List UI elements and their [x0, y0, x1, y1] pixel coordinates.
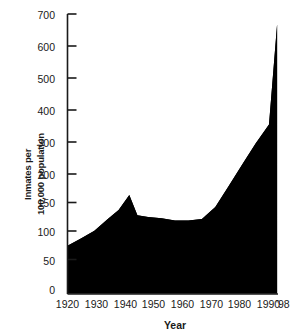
area-series-main	[68, 24, 278, 293]
chart-plot-area	[0, 0, 301, 335]
x-tick-label-1950: 1950	[138, 298, 169, 310]
x-tick-label-1930: 1930	[81, 298, 112, 310]
x-tick-label-1920: 1920	[52, 298, 83, 310]
x-tick-label-1980: 1980	[224, 298, 255, 310]
x-axis-title: Year	[145, 319, 205, 331]
x-tick-label-1970: 1970	[196, 298, 227, 310]
x-tick-label-1960: 1960	[167, 298, 198, 310]
chart-figure: Inmates per 100,000 population 700 600 5…	[0, 0, 301, 335]
x-tick-label-1940: 1940	[110, 298, 141, 310]
y-axis-ticks	[68, 14, 77, 260]
x-tick-label-98: '98	[276, 298, 298, 310]
